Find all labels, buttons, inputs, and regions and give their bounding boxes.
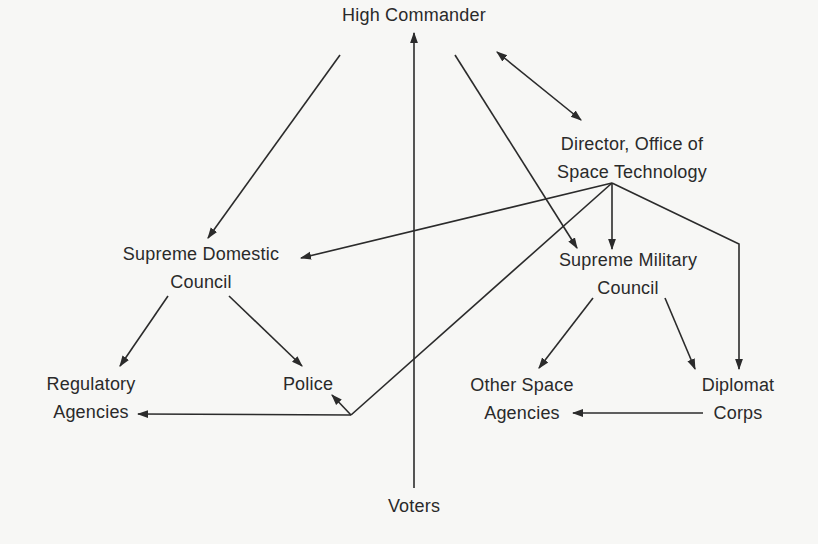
edge-junction-to-regulatory (138, 414, 351, 415)
edge-domestic-to-regulatory (120, 296, 168, 366)
node-supreme-domestic-council: Supreme Domestic Council (96, 240, 306, 296)
node-director-space-technology: Director, Office of Space Technology (532, 130, 732, 186)
node-high-commander: High Commander (314, 1, 514, 29)
edge-junction-to-police (332, 395, 351, 415)
node-voters: Voters (370, 492, 458, 520)
edge-commander-to-domestic (208, 55, 340, 238)
edge-commander-director-bidirectional (497, 52, 581, 120)
edge-military-to-diplomat (665, 298, 695, 369)
node-other-space-agencies: Other Space Agencies (452, 371, 592, 427)
org-chart-diagram: High Commander Director, Office of Space… (0, 0, 818, 544)
edge-domestic-to-police (229, 296, 302, 366)
edge-military-to-other-space (539, 298, 593, 368)
node-police: Police (270, 370, 346, 398)
node-regulatory-agencies: Regulatory Agencies (30, 370, 152, 426)
node-supreme-military-council: Supreme Military Council (528, 246, 728, 302)
node-diplomat-corps: Diplomat Corps (688, 371, 788, 427)
